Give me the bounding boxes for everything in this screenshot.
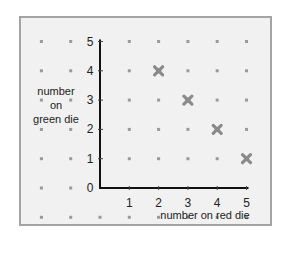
y-axis-label-line: on — [50, 99, 62, 111]
x-tick-label: 3 — [185, 196, 192, 210]
grid-dot — [216, 69, 219, 72]
grid-dot — [245, 128, 248, 131]
grid-dot — [128, 157, 131, 160]
grid-dot — [69, 69, 72, 72]
grid-dot — [40, 216, 43, 219]
y-tick-label: 2 — [87, 122, 94, 136]
grid-dot — [186, 69, 189, 72]
x-tick-labels: 12345 — [126, 196, 250, 210]
grid-dot — [69, 40, 72, 43]
grid-dot — [40, 187, 43, 190]
data-point-marker — [184, 96, 192, 104]
grid-dot — [69, 157, 72, 160]
grid-dot — [245, 69, 248, 72]
x-tick-label: 1 — [126, 196, 133, 210]
y-axis-label: numberongreen die — [33, 85, 79, 125]
data-markers — [155, 67, 251, 163]
grid-dot — [128, 128, 131, 131]
y-tick-label: 3 — [87, 93, 94, 107]
grid-dot — [245, 40, 248, 43]
grid-dot — [40, 157, 43, 160]
y-tick-label: 1 — [87, 152, 94, 166]
grid-dot — [99, 216, 102, 219]
grid-dot — [186, 128, 189, 131]
x-axis-label: number on red die — [160, 209, 249, 221]
data-point-marker — [243, 155, 251, 163]
grid-dot — [128, 99, 131, 102]
y-axis-label-line: green die — [33, 113, 79, 125]
data-point-marker — [155, 67, 163, 75]
grid-dot — [128, 40, 131, 43]
grid-dot — [128, 216, 131, 219]
grid-dot — [40, 40, 43, 43]
y-tick-labels: 012345 — [87, 35, 94, 196]
y-tick-label: 5 — [87, 35, 94, 49]
grid-dot — [128, 69, 131, 72]
grid-dot — [186, 40, 189, 43]
y-axis-label-line: number — [37, 85, 75, 97]
grid-dot — [186, 157, 189, 160]
grid-dot — [69, 187, 72, 190]
grid-dot — [216, 40, 219, 43]
grid-dot — [216, 99, 219, 102]
grid-dot — [40, 99, 43, 102]
grid-dot — [157, 99, 160, 102]
grid-dot — [40, 69, 43, 72]
x-tick-label: 2 — [155, 196, 162, 210]
grid-dot — [40, 128, 43, 131]
x-tick-label: 5 — [243, 196, 250, 210]
y-tick-label: 0 — [87, 181, 94, 195]
grid-dot — [157, 157, 160, 160]
grid-dot — [157, 128, 160, 131]
grid-dot — [69, 216, 72, 219]
grid-dot — [216, 157, 219, 160]
scatter-plot: 012345 12345 number on red die numberong… — [0, 0, 285, 255]
axes — [98, 40, 249, 191]
x-tick-label: 4 — [214, 196, 221, 210]
grid-dot — [69, 99, 72, 102]
y-tick-label: 4 — [87, 64, 94, 78]
grid-dot — [245, 99, 248, 102]
grid-dot — [69, 128, 72, 131]
grid-dot — [157, 40, 160, 43]
data-point-marker — [213, 125, 221, 133]
